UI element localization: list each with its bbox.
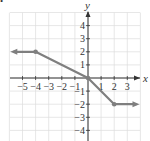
x-tick-label: −3: [43, 81, 54, 92]
y-tick-label: −2: [74, 99, 85, 110]
y-tick-label: −4: [74, 125, 85, 136]
y-tick-label: 2: [80, 46, 85, 57]
right-arrow-icon: [132, 101, 139, 107]
x-axis-arrow-icon: [134, 76, 140, 81]
x-tick-label: 2: [112, 81, 117, 92]
left-arrow-icon: [10, 49, 17, 55]
y-axis-label: y: [84, 0, 90, 11]
x-tick-label: −5: [17, 81, 28, 92]
y-axis-arrow-icon: [86, 11, 91, 17]
y-tick-label: −3: [74, 112, 85, 123]
x-tick-label: −4: [30, 81, 41, 92]
closed-point-icon: [112, 102, 117, 107]
piecewise-graph: xy −5−4−3−2−11234321−1−2−3−4: [0, 0, 150, 141]
y-tick-label: 1: [80, 59, 85, 70]
x-axis-label: x: [142, 72, 148, 84]
x-tick-label: 3: [125, 81, 130, 92]
y-tick-label: −1: [74, 86, 85, 97]
x-tick-label: −2: [56, 81, 67, 92]
closed-point-icon: [86, 76, 91, 81]
y-tick-label: 4: [80, 20, 85, 31]
y-tick-label: 3: [80, 33, 85, 44]
closed-point-icon: [33, 50, 38, 55]
